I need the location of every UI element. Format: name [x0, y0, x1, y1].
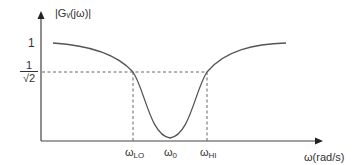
- x-axis-arrow-icon: [315, 138, 323, 145]
- y-tick-one: 1: [28, 36, 35, 50]
- x-tick-omega-lo: ωLO: [125, 146, 144, 160]
- omega-symbol: ω: [164, 146, 173, 158]
- x-tick-omega-hi: ωHI: [200, 146, 217, 160]
- omega-symbol: ω: [200, 146, 209, 158]
- omega-symbol: ω: [125, 146, 134, 158]
- fraction-denominator: √2: [20, 72, 38, 84]
- x-tick-omega-0: ω0: [164, 146, 177, 160]
- y-axis-arrow-icon: [38, 11, 45, 19]
- response-curve: [53, 43, 286, 138]
- plot-canvas: [0, 0, 353, 165]
- omega-subscript: 0: [173, 151, 177, 160]
- y-axis-label: |Gᵥ(jω)|: [55, 7, 91, 19]
- x-axis-label: ω(rad/s): [304, 151, 344, 163]
- omega-subscript: LO: [134, 151, 145, 160]
- y-tick-half-power: 1 √2: [20, 59, 38, 84]
- frequency-response-diagram: |Gᵥ(jω)| 1 1 √2 ωLO ω0 ωHI ω(rad/s): [0, 0, 353, 165]
- omega-subscript: HI: [209, 151, 217, 160]
- fraction-numerator: 1: [20, 59, 38, 72]
